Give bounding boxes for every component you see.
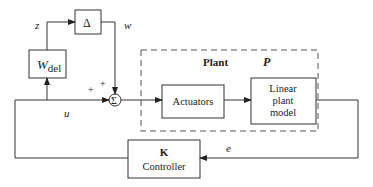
linear-plant-line3: model bbox=[270, 107, 296, 118]
controller-k-label: K bbox=[160, 146, 169, 158]
actuators-label: Actuators bbox=[173, 96, 214, 107]
plant-group-title: Plant bbox=[203, 56, 228, 68]
block-diagram: Plant P Wdel Δ Σ + + Actuators Linear pl… bbox=[0, 0, 373, 187]
sum-label: Σ bbox=[111, 95, 117, 106]
sum-sign-top: + bbox=[100, 78, 106, 89]
linear-plant-line2: plant bbox=[273, 95, 294, 106]
signal-z-label: z bbox=[34, 19, 40, 31]
delta-label: Δ bbox=[83, 16, 91, 30]
linear-plant-line1: Linear bbox=[269, 83, 297, 94]
signal-e-label: e bbox=[226, 142, 231, 154]
signal-w-label: w bbox=[124, 19, 132, 31]
sum-sign-left: + bbox=[88, 84, 94, 95]
plant-symbol: P bbox=[263, 55, 271, 69]
signal-u-label: u bbox=[64, 107, 70, 119]
controller-label: Controller bbox=[142, 161, 186, 172]
wire-z bbox=[47, 22, 75, 50]
wire-controller-out bbox=[15, 100, 128, 158]
